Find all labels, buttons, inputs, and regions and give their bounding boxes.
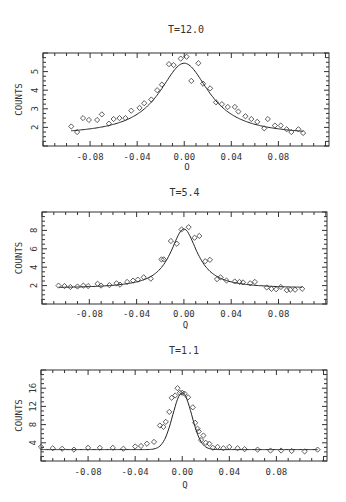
fit-curve xyxy=(41,393,318,450)
data-point-diamond-icon xyxy=(117,116,122,121)
panel-t12: T=12.0-0.08-0.040.000.040.08Q2345COUNTS xyxy=(0,0,346,170)
y-tick-label: 4 xyxy=(30,87,40,92)
data-point-diamond-icon xyxy=(272,123,277,128)
data-point-diamond-icon xyxy=(249,116,254,121)
data-point-diamond-icon xyxy=(62,283,67,288)
data-point-diamond-icon xyxy=(163,419,168,424)
data-point-diamond-icon xyxy=(189,78,194,83)
x-tick-label: 0.00 xyxy=(173,152,195,162)
y-axis-label: COUNTS xyxy=(14,83,24,116)
data-point-diamond-icon xyxy=(182,391,187,396)
fit-curve xyxy=(59,229,303,287)
y-tick-label: 16 xyxy=(28,383,38,394)
data-point-diamond-icon xyxy=(219,102,224,107)
plot-frame xyxy=(41,370,327,461)
data-point-diamond-icon xyxy=(81,283,86,288)
chart-title: T=5.4 xyxy=(169,187,199,198)
data-point-diamond-icon xyxy=(60,446,65,451)
y-tick-label: 2 xyxy=(29,283,39,288)
x-tick-label: 0.08 xyxy=(268,152,290,162)
data-point-diamond-icon xyxy=(278,448,283,453)
data-point-diamond-icon xyxy=(175,386,180,391)
data-point-diamond-icon xyxy=(232,104,237,109)
x-tick-label: -0.08 xyxy=(76,309,103,319)
y-tick-label: 2 xyxy=(30,125,40,130)
data-point-diamond-icon xyxy=(133,444,138,449)
data-point-diamond-icon xyxy=(69,124,74,129)
data-point-diamond-icon xyxy=(144,441,149,446)
x-tick-label: -0.08 xyxy=(77,152,104,162)
chart-title: T=1.1 xyxy=(169,345,199,356)
x-tick-label: 0.04 xyxy=(220,152,242,162)
y-axis-label: COUNTS xyxy=(14,399,24,432)
data-point-diamond-icon xyxy=(142,101,147,106)
y-tick-label: 4 xyxy=(28,440,38,445)
data-point-diamond-icon xyxy=(129,108,134,113)
y-tick-label: 12 xyxy=(28,401,38,412)
data-point-diamond-icon xyxy=(166,62,171,67)
data-point-diamond-icon xyxy=(201,433,206,438)
y-tick-label: 3 xyxy=(30,106,40,111)
data-point-diamond-icon xyxy=(167,409,172,414)
data-point-diamond-icon xyxy=(121,446,126,451)
data-point-diamond-icon xyxy=(111,116,116,121)
panel-t1: T=1.1-0.08-0.040.000.040.08Q481216COUNTS xyxy=(0,330,346,502)
x-tick-label: 0.08 xyxy=(268,309,290,319)
x-tick-label: 0.04 xyxy=(220,309,242,319)
y-tick-label: 8 xyxy=(29,228,39,233)
data-point-diamond-icon xyxy=(95,117,100,122)
data-point-diamond-icon xyxy=(168,238,173,243)
y-tick-label: 5 xyxy=(30,69,40,74)
x-tick-label: 0.00 xyxy=(173,309,195,319)
data-point-diamond-icon xyxy=(207,257,212,262)
data-point-diamond-icon xyxy=(252,279,257,284)
x-tick-label: 0.04 xyxy=(218,467,240,477)
chart-t1: T=1.1-0.08-0.040.000.040.08Q481216COUNTS xyxy=(0,330,346,502)
data-point-diamond-icon xyxy=(99,112,104,117)
data-point-diamond-icon xyxy=(186,225,191,230)
x-tick-label: 0.00 xyxy=(171,467,193,477)
data-point-diamond-icon xyxy=(138,443,143,448)
data-point-diamond-icon xyxy=(86,283,91,288)
x-tick-label: -0.04 xyxy=(123,309,150,319)
x-tick-label: -0.04 xyxy=(122,467,149,477)
data-point-diamond-icon xyxy=(227,444,232,449)
data-point-diamond-icon xyxy=(243,114,248,119)
data-point-diamond-icon xyxy=(215,444,220,449)
x-axis-label: Q xyxy=(184,162,189,170)
chart-title: T=12.0 xyxy=(168,24,204,35)
data-point-diamond-icon xyxy=(178,56,183,61)
x-tick-label: -0.04 xyxy=(124,152,151,162)
data-point-diamond-icon xyxy=(278,123,283,128)
x-tick-label: 0.08 xyxy=(266,467,288,477)
y-tick-label: 4 xyxy=(29,264,39,269)
data-point-diamond-icon xyxy=(196,61,201,66)
data-point-diamond-icon xyxy=(274,287,279,292)
x-axis-label: Q xyxy=(182,480,187,490)
data-point-diamond-icon xyxy=(236,109,241,114)
data-point-diamond-icon xyxy=(80,116,85,121)
data-point-diamond-icon xyxy=(86,117,91,122)
data-point-diamond-icon xyxy=(171,62,176,67)
chart-t12: T=12.0-0.08-0.040.000.040.08Q2345COUNTS xyxy=(0,0,346,170)
data-point-diamond-icon xyxy=(190,405,195,410)
data-point-diamond-icon xyxy=(184,54,189,59)
data-point-diamond-icon xyxy=(225,104,230,109)
chart-t5: T=5.4-0.08-0.040.000.040.08Q2468COUNTS xyxy=(0,170,346,330)
y-tick-label: 6 xyxy=(29,246,39,251)
y-axis-label: COUNTS xyxy=(14,242,24,275)
data-point-diamond-icon xyxy=(137,105,142,110)
panel-t5: T=5.4-0.08-0.040.000.040.08Q2468COUNTS xyxy=(0,170,346,330)
x-tick-label: -0.08 xyxy=(75,467,102,477)
data-point-diamond-icon xyxy=(151,439,156,444)
data-point-diamond-icon xyxy=(269,286,274,291)
data-point-diamond-icon xyxy=(95,281,100,286)
data-point-diamond-icon xyxy=(265,116,270,121)
data-point-diamond-icon xyxy=(268,448,273,453)
data-point-diamond-icon xyxy=(255,119,260,124)
y-tick-label: 8 xyxy=(28,422,38,427)
x-axis-label: Q xyxy=(183,320,188,330)
plot-frame xyxy=(43,53,329,146)
